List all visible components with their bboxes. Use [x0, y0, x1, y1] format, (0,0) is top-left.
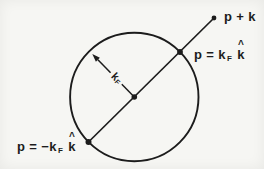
neg-kf-subscript: F [58, 146, 63, 155]
p-kf-label: p = kF^k [194, 48, 245, 65]
k-hat-symbol: ^k [237, 48, 245, 61]
fermi-sphere-figure: p + k p = kF^k p = −kF^k kF [0, 0, 264, 169]
p-plus-k-label: p + k [224, 10, 256, 23]
hat-accent-icon: ^ [69, 132, 75, 142]
k-hat-symbol: ^k [68, 140, 76, 153]
neg-kf-dot [86, 139, 92, 145]
p-plus-k-dot [212, 16, 217, 21]
p-kf-subscript: F [227, 54, 232, 63]
center-dot [132, 94, 138, 100]
neg-kf-prefix: p = −k [17, 139, 57, 154]
p-kf-prefix: p = k [194, 47, 226, 62]
hat-accent-icon: ^ [238, 40, 244, 50]
neg-kf-label: p = −kF^k [17, 140, 76, 157]
p-kf-dot [177, 49, 183, 55]
